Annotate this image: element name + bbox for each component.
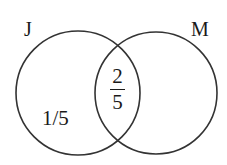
set-m-label: M [191,19,209,39]
set-j-label: J [24,19,32,39]
intersection-fraction: 2 5 [109,66,126,113]
intersection-denominator: 5 [112,92,123,113]
intersection-numerator: 2 [112,66,123,87]
j-only-region-value: 1/5 [42,108,69,129]
